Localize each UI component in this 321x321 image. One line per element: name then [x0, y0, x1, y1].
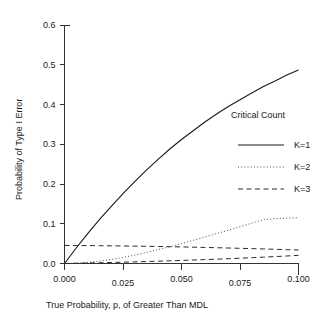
y-tick-label: 0.0: [43, 259, 56, 269]
legend-label-k-2: K=2: [294, 162, 310, 172]
x-tick-label: 0.100: [287, 274, 310, 284]
y-axis-tick-labels: 0.00.10.20.30.40.50.6: [43, 20, 56, 269]
series-line-k-1: [65, 70, 299, 264]
series-line-k-2: [65, 218, 299, 264]
x-tick-label: 0.050: [170, 274, 193, 284]
axes-group: [65, 25, 299, 275]
y-tick-label: 0.1: [43, 219, 56, 229]
legend-title: Critical Count: [231, 110, 286, 120]
x-tick-label: 0.000: [53, 274, 76, 284]
x-axis-title: True Probability, p, of Greater Than MDL: [46, 300, 208, 310]
x-tick-label: 0.075: [229, 278, 252, 288]
y-axis-ticks: [60, 25, 65, 264]
y-axis-title: Probability of Type I Error: [14, 99, 24, 200]
series-line-k-3-lower: [65, 255, 299, 263]
data-series-group: [65, 70, 299, 264]
legend-entries: K=1K=2K=3: [238, 140, 310, 194]
y-tick-label: 0.3: [43, 139, 56, 149]
chart-page: 0.00.10.20.30.40.50.6 0.0000.0250.0500.0…: [0, 0, 321, 321]
y-tick-label: 0.2: [43, 179, 56, 189]
legend: Critical Count K=1K=2K=3: [231, 110, 310, 194]
y-tick-label: 0.5: [43, 60, 56, 70]
legend-label-k-1: K=1: [294, 140, 310, 150]
y-tick-label: 0.4: [43, 100, 56, 110]
x-tick-label: 0.025: [112, 278, 135, 288]
legend-label-k-3: K=3: [294, 184, 310, 194]
series-line-k-3: [65, 245, 299, 250]
x-axis-ticks: [65, 264, 299, 270]
y-tick-label: 0.6: [43, 20, 56, 30]
x-axis-tick-labels: 0.0000.0250.0500.0750.100: [53, 274, 310, 288]
type-i-error-chart: 0.00.10.20.30.40.50.6 0.0000.0250.0500.0…: [0, 0, 321, 321]
